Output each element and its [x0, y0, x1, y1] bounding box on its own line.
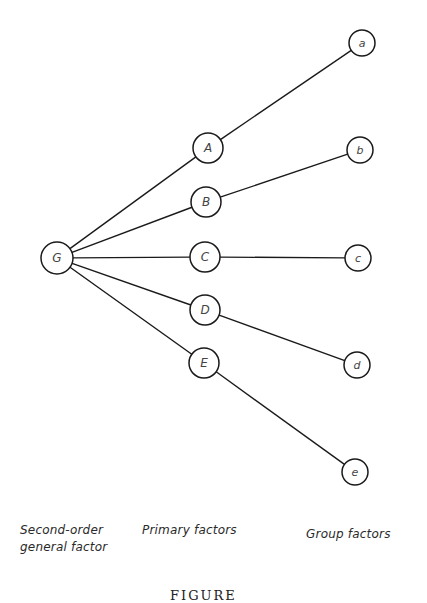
node-label: e — [352, 466, 359, 479]
edge-G-B — [72, 207, 192, 252]
edge-B-b — [220, 154, 347, 197]
edge-D-d — [219, 315, 345, 360]
label-second-order-line1: Second-order — [20, 522, 103, 539]
node-c: c — [345, 245, 371, 271]
node-label: b — [357, 144, 364, 157]
node-label: B — [202, 195, 210, 209]
figure-caption: FIGURE — [170, 588, 237, 603]
edge-G-C — [73, 257, 190, 258]
edge-E-e — [216, 372, 344, 465]
node-label: a — [359, 37, 366, 50]
label-group-factors: Group factors — [306, 526, 391, 543]
node-E: E — [189, 348, 219, 378]
node-label: A — [203, 141, 212, 155]
node-label: D — [200, 303, 209, 317]
node-a: a — [349, 30, 375, 56]
node-label: C — [201, 250, 210, 264]
edge-G-D — [72, 263, 191, 305]
node-label: E — [200, 356, 208, 370]
edge-C-c — [220, 257, 345, 258]
node-G: G — [41, 242, 73, 274]
edge-G-E — [70, 267, 192, 354]
label-primary-factors: Primary factors — [142, 522, 237, 539]
edge-A-a — [220, 50, 351, 139]
node-D: D — [190, 295, 220, 325]
node-B: B — [191, 187, 221, 217]
node-b: b — [347, 137, 373, 163]
node-label: c — [355, 252, 361, 265]
node-A: A — [193, 133, 223, 163]
node-label: d — [354, 359, 362, 372]
node-e: e — [342, 459, 368, 485]
edge-G-A — [70, 157, 196, 249]
node-label: G — [52, 251, 61, 265]
node-C: C — [190, 242, 220, 272]
label-second-order-line2: general factor — [20, 539, 107, 556]
node-d: d — [344, 352, 370, 378]
